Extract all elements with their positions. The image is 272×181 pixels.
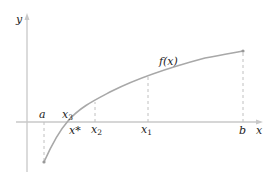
diagram-canvas: y x f(x) a x3 x* x2 x1 b [0, 0, 272, 181]
point-label-xstar: x* [69, 124, 81, 137]
endpoint-b-dot [241, 49, 244, 52]
point-label-x3: x3 [62, 108, 73, 122]
function-curve [44, 51, 243, 162]
point-label-a: a [39, 108, 46, 121]
point-label-x1: x1 [141, 123, 152, 137]
x-axis-label: x [256, 124, 263, 137]
y-axis-label: y [15, 13, 23, 26]
point-label-x2: x2 [91, 123, 102, 137]
point-label-b: b [239, 124, 246, 137]
y-axis-arrow-icon [25, 13, 30, 20]
function-label: f(x) [158, 55, 178, 68]
endpoint-a-dot [42, 160, 45, 163]
